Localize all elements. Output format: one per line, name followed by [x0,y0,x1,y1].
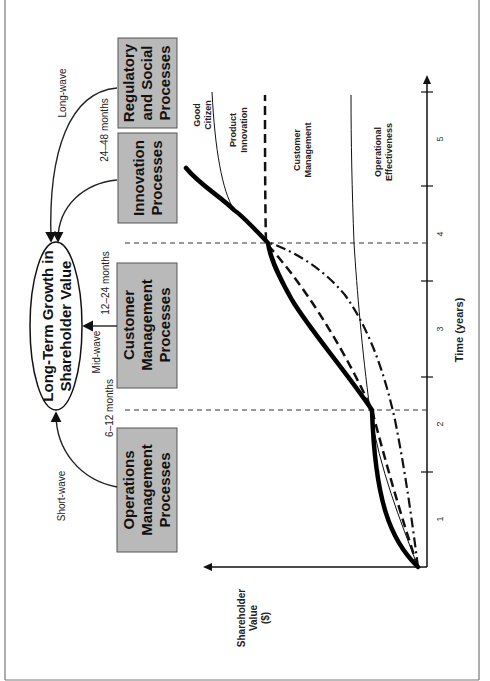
svg-text:Good: Good [192,103,202,127]
svg-text:Effectiveness: Effectiveness [384,123,394,181]
regulatory-box: Regulatory and Social Processes [118,38,177,128]
innovation-box: Innovation Processes [118,133,177,223]
svg-text:Citizen: Citizen [203,100,213,130]
total-value-line [186,168,418,567]
value-axis-arrow-icon [203,563,212,571]
band-label-operational-effectiveness: Operational Effectiveness [373,123,394,181]
customer-line1: Customer [120,290,137,360]
svg-text:Operational: Operational [373,127,383,177]
mid-wave-label: Mid-wave [91,330,102,373]
svg-text:Value: Value [248,605,259,632]
customer-box: Customer Management Processes [117,263,177,388]
long-wave-arrow-innovation [58,180,117,240]
long-wave-label: Long-wave [57,68,68,117]
diagram-canvas: Regulatory and Social Processes Innovati… [0,0,490,681]
svg-text:Innovation: Innovation [239,107,249,153]
tick-label-3: 3 [435,326,445,331]
customer-line2: Management [138,279,155,371]
regulatory-line1: Regulatory [120,43,137,122]
customer-line3: Processes [156,287,173,362]
innovation-line2: Processes [148,140,165,215]
tick-label-2: 2 [435,421,445,426]
svg-text:Management: Management [303,122,313,177]
product-innovation-line [265,95,418,567]
band-label-good-citizen: Good Citizen [192,100,213,130]
operations-line1: Operations [120,450,137,529]
regulatory-line3: Processes [156,45,173,120]
band-label-customer-management: Customer Management [292,122,313,177]
goal-line1: Long-Term Growth in [39,250,56,401]
customer-horizon-label: 12–24 months [100,251,111,314]
goal-line2: Shareholder Value [57,261,74,392]
svg-text:($): ($) [260,612,271,624]
tick-label-1: 1 [435,516,445,521]
svg-text:Shareholder: Shareholder [236,589,247,647]
time-axis-label: Time (years) [453,297,465,362]
time-axis-arrow-icon [423,75,431,84]
operations-box: Operations Management Processes [117,428,177,552]
band-label-product-innovation: Product Innovation [228,107,249,153]
value-axis-label: Shareholder Value ($) [236,589,271,647]
innovation-horizon-label: 24–48 months [99,98,110,161]
operations-horizon-label: 6–12 months [104,379,115,437]
operations-line3: Processes [156,452,173,527]
short-wave-label: Short-wave [56,470,67,521]
innovation-line1: Innovation [130,140,147,216]
regulatory-line2: and Social [138,45,155,120]
goal-ellipse: Long-Term Growth in Shareholder Value [30,242,82,410]
operations-line2: Management [138,444,155,536]
svg-text:Product: Product [228,113,238,147]
tick-label-4: 4 [435,231,445,236]
tick-label-5: 5 [435,136,445,141]
svg-text:Customer: Customer [292,129,302,172]
customer-management-line [270,243,418,567]
